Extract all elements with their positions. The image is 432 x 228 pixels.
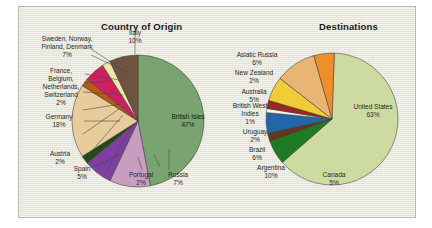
slice-label-scandinavia: Sweden, Norway, Finland, Denmark 7%	[21, 35, 113, 59]
slice-label-british-west-indies: British West Indies 1%	[217, 102, 283, 126]
slice-label-russia: Russia 7%	[159, 171, 197, 187]
slice-label-canada: Canada 5%	[309, 171, 359, 187]
slice-label-spain: Spain 5%	[63, 165, 101, 181]
slice-label-brazil: Brazil 6%	[233, 146, 281, 162]
slice-label-low-countries: France, Belgium, Netherlands, Switzerlan…	[23, 67, 99, 107]
slice-label-united-states: United States 63%	[339, 103, 407, 119]
slice-label-austria: Austria 2%	[33, 150, 87, 166]
slice-label-italy: Italy 10%	[114, 29, 156, 45]
slice-label-argentina: Argentina 10%	[241, 164, 301, 180]
slice-label-asiatic-russia: Asiatic Russia 6%	[223, 51, 291, 67]
slice-label-new-zealand: New Zealand 2%	[221, 69, 287, 85]
slice-label-british-isles: British Isles 47%	[157, 113, 219, 129]
slice-label-uruguay: Uruguay 2%	[227, 128, 283, 144]
chart-title-destinations: Destinations	[319, 21, 378, 32]
figure-root: Country of Origin Destinations Italy 10%…	[0, 0, 432, 228]
chart-panel: Country of Origin Destinations Italy 10%…	[18, 6, 416, 218]
slice-label-germany: Germany 18%	[31, 113, 87, 129]
